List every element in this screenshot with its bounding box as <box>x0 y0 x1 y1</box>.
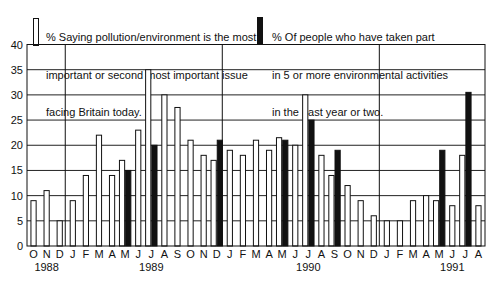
x-tick-label: N <box>200 248 208 260</box>
bar-concern <box>136 130 141 246</box>
bar-activity <box>466 92 471 246</box>
bar-concern <box>424 196 429 246</box>
x-tick-label: J <box>463 248 469 260</box>
x-tick-label: O <box>29 248 38 260</box>
x-tick-label: D <box>56 248 64 260</box>
y-tick-label: 35 <box>11 64 23 76</box>
y-tick-label: 15 <box>11 164 23 176</box>
bar-concern <box>384 221 389 246</box>
bar-concern <box>119 160 124 246</box>
bar-concern <box>476 206 481 246</box>
y-tick-label: 40 <box>11 39 23 51</box>
bar-concern <box>201 155 206 246</box>
bar-concern <box>57 221 62 246</box>
bar-concern <box>175 107 180 246</box>
bar-concern <box>162 95 167 246</box>
bar-concern <box>31 201 36 246</box>
bar-concern <box>211 160 216 246</box>
bar-concern <box>319 155 324 246</box>
x-tick-label: A <box>318 248 326 260</box>
bar-activity <box>309 120 314 246</box>
bar-concern <box>96 135 101 246</box>
bar-activity <box>217 140 222 246</box>
x-tick-label: D <box>213 248 221 260</box>
y-tick-label: 30 <box>11 89 23 101</box>
bar-concern <box>460 155 465 246</box>
x-tick-label: J <box>227 248 233 260</box>
y-tick-label: 25 <box>11 114 23 126</box>
bar-concern <box>227 150 232 246</box>
bar-concern <box>329 175 334 246</box>
x-tick-label: J <box>70 248 76 260</box>
x-tick-label: S <box>331 248 338 260</box>
x-tick-label: N <box>43 248 51 260</box>
bar-concern <box>345 186 350 246</box>
x-tick-label: M <box>408 248 417 260</box>
x-tick-label: A <box>161 248 169 260</box>
bar-activity <box>283 140 288 246</box>
bar-activity <box>126 170 131 246</box>
bar-concern <box>410 201 415 246</box>
x-tick-label: M <box>121 248 130 260</box>
bar-activity <box>440 150 445 246</box>
x-tick-label: F <box>240 248 247 260</box>
x-tick-label: M <box>251 248 260 260</box>
x-tick-label: N <box>357 248 365 260</box>
bar-concern <box>240 155 245 246</box>
bar-concern <box>371 216 376 246</box>
year-label: 1991 <box>440 261 464 273</box>
y-tick-label: 0 <box>17 240 23 252</box>
bar-concern <box>303 95 308 246</box>
x-tick-label: M <box>435 248 444 260</box>
x-tick-label: O <box>186 248 195 260</box>
x-tick-label: J <box>293 248 299 260</box>
x-tick-label: A <box>108 248 116 260</box>
bar-concern <box>253 140 258 246</box>
x-tick-label: F <box>397 248 404 260</box>
x-tick-label: J <box>135 248 141 260</box>
x-tick-label: O <box>343 248 352 260</box>
year-label: 1990 <box>296 261 320 273</box>
bar-concern <box>358 201 363 246</box>
year-label: 1989 <box>139 261 163 273</box>
bar-concern <box>397 221 402 246</box>
bar-activity <box>335 150 340 246</box>
bar-concern <box>266 150 271 246</box>
bar-concern <box>70 201 75 246</box>
bar-activity <box>152 145 157 246</box>
bar-concern <box>146 70 151 246</box>
bar-concern <box>188 140 193 246</box>
x-tick-label: S <box>174 248 181 260</box>
x-tick-label: M <box>94 248 103 260</box>
bar-concern <box>293 145 298 246</box>
x-tick-label: D <box>370 248 378 260</box>
y-tick-label: 10 <box>11 190 23 202</box>
bar-concern <box>109 175 114 246</box>
x-tick-label: J <box>149 248 155 260</box>
y-tick-label: 20 <box>11 139 23 151</box>
x-tick-label: J <box>384 248 390 260</box>
x-tick-label: J <box>450 248 456 260</box>
x-tick-label: A <box>475 248 483 260</box>
x-tick-label: M <box>278 248 287 260</box>
x-tick-label: J <box>306 248 312 260</box>
x-tick-label: A <box>265 248 273 260</box>
x-tick-label: F <box>83 248 90 260</box>
bar-concern <box>450 206 455 246</box>
year-label: 1988 <box>34 261 58 273</box>
x-tick-label: A <box>422 248 430 260</box>
bar-concern <box>276 138 281 246</box>
bar-concern <box>44 191 49 246</box>
bar-concern <box>83 175 88 246</box>
bar-chart: 0510152025303540ONDJFMAMJJASONDJFMAMJJAS… <box>0 0 494 283</box>
bar-concern <box>434 201 439 246</box>
y-tick-label: 5 <box>17 215 23 227</box>
